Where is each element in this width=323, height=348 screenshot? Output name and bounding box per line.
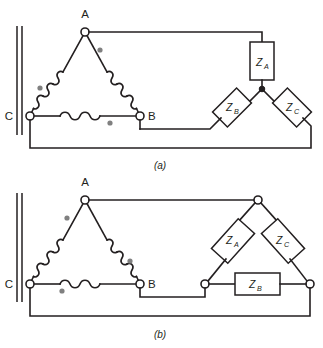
- diagram-b: A B C Z A Z C Z B: [5, 176, 314, 340]
- impedance-zc-label-sub: C: [294, 107, 300, 116]
- load-left-node-diagram-b: [201, 280, 209, 288]
- delta-source-b: [30, 200, 140, 288]
- terminal-label-c-diagram-b: C: [5, 278, 13, 290]
- bus-break-marker-a: [17, 26, 22, 135]
- polarity-dot-ca-b: [64, 215, 69, 220]
- terminal-label-b-diagram-a: B: [148, 110, 156, 122]
- apex-to-za-diagram-b: [238, 203, 255, 222]
- caption-b: (b): [154, 329, 166, 340]
- impedance-zb-b-label-sub: B: [257, 284, 262, 293]
- terminal-label-a-diagram-a: A: [81, 8, 89, 20]
- impedance-zb-label-sub: B: [234, 107, 239, 116]
- load-right-node-diagram-b: [306, 280, 314, 288]
- impedance-za-diagram-b: Z A: [211, 219, 254, 263]
- impedance-za-label-main: Z: [255, 56, 263, 68]
- polarity-dot-ab-a: [97, 47, 102, 52]
- terminal-label-a-diagram-b: A: [81, 176, 89, 188]
- impedance-za-label-sub: A: [263, 62, 269, 71]
- polarity-dot-cb-b: [59, 288, 64, 293]
- impedance-zc-diagram-b: Z C: [261, 219, 304, 263]
- za-to-left-node-diagram-b: [208, 259, 226, 281]
- terminal-b-node-b: [136, 280, 144, 288]
- impedance-za-b-label-main: Z: [225, 234, 233, 246]
- terminal-a-node-b: [81, 196, 89, 204]
- impedance-zb-b-label-main: Z: [248, 278, 256, 290]
- terminal-label-b-diagram-b: B: [148, 278, 156, 290]
- circuit-figure: A B C Z A Z B Z C (a): [0, 0, 323, 348]
- terminal-c-node-a: [26, 112, 34, 120]
- polarity-dot-cb-a: [107, 120, 112, 125]
- polarity-dot-ab-b: [127, 258, 132, 263]
- line-a-to-za-diagram-a: [89, 32, 262, 42]
- impedance-zc-b-label-sub: C: [284, 240, 290, 249]
- bus-break-marker-b: [17, 193, 22, 302]
- impedance-zc-b-label-main: Z: [275, 234, 283, 246]
- polarity-dot-ca-a: [37, 85, 42, 90]
- terminal-label-c-diagram-a: C: [5, 110, 13, 122]
- diagram-a: A B C Z A Z B Z C (a): [5, 8, 312, 171]
- zc-to-line-c-diagram-a: [30, 118, 311, 148]
- impedance-zc-label-main: Z: [285, 101, 293, 113]
- caption-a: (a): [154, 160, 166, 171]
- impedance-za-b-label-sub: A: [233, 240, 239, 249]
- delta-source-a: [30, 32, 140, 120]
- impedance-za-diagram-a: Z A: [250, 42, 274, 80]
- impedance-zb-diagram-b: Z B: [235, 273, 280, 295]
- terminal-b-node-a: [136, 112, 144, 120]
- zc-to-right-node-diagram-b: [290, 259, 307, 281]
- figure-root: A B C Z A Z B Z C (a): [0, 0, 323, 348]
- apex-to-zc-diagram-b: [261, 203, 278, 222]
- terminal-c-node-b: [26, 280, 34, 288]
- terminal-a-node-a: [81, 28, 89, 36]
- impedance-zb-label-main: Z: [225, 101, 233, 113]
